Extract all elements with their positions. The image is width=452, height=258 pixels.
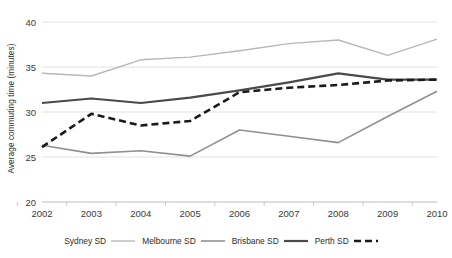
legend-item-sydney-sd[interactable]: Sydney SD — [64, 236, 136, 246]
legend-swatch-brisbane-sd — [283, 237, 309, 245]
series-line-sydney-sd — [42, 39, 437, 76]
series-line-melbourne-sd — [42, 91, 437, 156]
legend-item-label: Brisbane SD — [232, 236, 279, 246]
legend-swatch-melbourne-sd — [200, 237, 226, 245]
legend-item-brisbane-sd[interactable]: Brisbane SD — [232, 236, 309, 246]
legend-swatch-sydney-sd — [110, 237, 136, 245]
legend-item-label: Perth SD — [315, 236, 349, 246]
legend-item-perth-sd[interactable]: Perth SD — [315, 236, 379, 246]
legend-item-label: Sydney SD — [64, 236, 106, 246]
series-line-brisbane-sd — [42, 73, 437, 103]
legend-item-label: Melbourne SD — [142, 236, 196, 246]
legend-item-melbourne-sd[interactable]: Melbourne SD — [142, 236, 226, 246]
legend-swatch-perth-sd — [353, 237, 379, 245]
chart-legend: Sydney SDMelbourne SDBrisbane SDPerth SD — [0, 236, 443, 246]
